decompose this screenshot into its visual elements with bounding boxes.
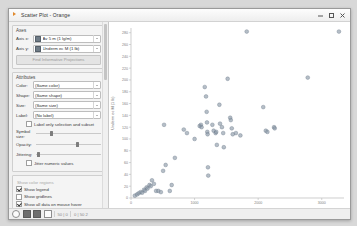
size-label: Size:	[16, 103, 33, 108]
svg-text:260: 260	[122, 43, 128, 47]
shape-combo[interactable]: (Same shape)	[33, 91, 101, 99]
label-value: (No label)	[35, 113, 93, 118]
svg-text:120: 120	[122, 126, 128, 130]
chevron-down-icon	[93, 45, 99, 52]
svg-text:200: 200	[122, 78, 128, 82]
svg-text:240: 240	[122, 55, 128, 59]
label-row: Label: (No label)	[16, 111, 101, 119]
label-only-selection-checkbox[interactable]: Label only selection and subset	[26, 121, 101, 127]
svg-text:100: 100	[122, 137, 128, 141]
jitter-numeric-values-text: Jitter numeric values	[34, 161, 73, 166]
svg-text:140: 140	[122, 114, 128, 118]
checkbox-box-icon	[26, 121, 32, 127]
show-color-regions-label: Show color regions	[17, 180, 101, 185]
jittering-slider-row: Jittering:	[16, 151, 101, 158]
maximize-icon[interactable]	[326, 10, 337, 21]
axis-x-label: Axis x:	[16, 36, 33, 41]
status-separator	[54, 211, 55, 217]
size-value: (Same size)	[35, 103, 93, 108]
panel-scrollbar-thumb[interactable]	[104, 24, 107, 80]
save-icon[interactable]	[23, 210, 31, 218]
svg-text:160: 160	[122, 102, 128, 106]
jittering-slider[interactable]	[36, 151, 101, 158]
svg-text:80: 80	[124, 149, 128, 153]
color-row: Color: (Same color)	[16, 81, 101, 89]
find-informative-projections-button[interactable]: Find Informative Projections	[16, 55, 101, 65]
axis-y-label: Axis y:	[16, 46, 33, 51]
shape-label: Shape:	[16, 93, 33, 98]
slider-handle[interactable]	[37, 152, 40, 157]
axis-x-row: Axis x: Av 5 m (1 lg/m)	[16, 35, 101, 43]
color-combo[interactable]: (Same color)	[33, 81, 101, 89]
find-informative-projections-label: Find Informative Projections	[33, 57, 85, 62]
axis-x-value: Av 5 m (1 lg/m)	[43, 36, 94, 41]
svg-text:40: 40	[124, 173, 128, 177]
show-legend-checkbox[interactable]: Show legend	[16, 186, 101, 192]
opacity-label: Opacity:	[16, 142, 36, 147]
slider-handle[interactable]	[76, 142, 79, 147]
show-gridlines-text: Show gridlines	[24, 194, 52, 199]
settings-icon[interactable]	[44, 210, 52, 218]
label-combo[interactable]: (No label)	[33, 111, 101, 119]
chevron-down-icon	[93, 92, 99, 99]
svg-text:3000: 3000	[318, 201, 326, 205]
attributes-group-title: Attributes	[16, 75, 101, 80]
panel-scrollbar[interactable]	[102, 22, 108, 208]
report-icon[interactable]	[33, 210, 41, 218]
scatter-plot-svg: 0204060801001201401601802002202402602800…	[109, 22, 350, 220]
status-separator	[70, 211, 71, 217]
symbol-size-label: Symbol size:	[16, 129, 36, 139]
chevron-down-icon	[93, 35, 99, 42]
opacity-slider-row: Opacity:	[16, 141, 101, 148]
opacity-slider[interactable]	[36, 141, 101, 148]
orange-widget-icon	[12, 12, 19, 19]
label-only-selection-text: Label only selection and subset	[34, 122, 94, 127]
show-gridlines-checkbox[interactable]: Show gridlines	[16, 194, 101, 200]
variable-swatch-icon	[35, 46, 41, 52]
svg-text:220: 220	[122, 67, 128, 71]
chevron-down-icon	[93, 112, 99, 119]
size-combo[interactable]: (Same size)	[33, 101, 101, 109]
symbol-size-slider[interactable]	[36, 130, 101, 137]
scatter-plot-window: Scatter Plot - Orange Axes Axis x: Av 5 …	[8, 8, 351, 220]
svg-text:280: 280	[122, 31, 128, 35]
show-all-data-on-hover-checkbox[interactable]: Show all data on mouse hover	[16, 201, 101, 207]
svg-text:2000: 2000	[254, 201, 262, 205]
svg-text:Underm ec M (1 lb): Underm ec M (1 lb)	[110, 96, 115, 130]
shape-value: (Same shape)	[35, 93, 93, 98]
color-label: Color:	[16, 83, 33, 88]
minimize-icon[interactable]	[315, 10, 326, 21]
size-row: Size: (Same size)	[16, 101, 101, 109]
checkbox-box-icon	[16, 186, 22, 192]
jitter-numeric-values-checkbox[interactable]: Jitter numeric values	[26, 160, 101, 166]
close-icon[interactable]	[337, 10, 348, 21]
shape-row: Shape: (Same shape)	[16, 91, 101, 99]
axes-group: Axes Axis x: Av 5 m (1 lg/m) Axis y: Und…	[12, 25, 105, 69]
checkbox-box-icon	[16, 194, 22, 200]
attributes-group: Attributes Color: (Same color) Shape: (S…	[12, 72, 105, 172]
axis-y-row: Axis y: Underm ec M (1 lb)	[16, 45, 101, 53]
checkbox-box-icon	[26, 160, 32, 166]
axis-y-combo[interactable]: Underm ec M (1 lb)	[33, 45, 101, 53]
slider-handle[interactable]	[50, 131, 53, 136]
chevron-down-icon	[93, 82, 99, 89]
svg-text:60: 60	[124, 161, 128, 165]
color-value: (Same color)	[35, 83, 93, 88]
axis-x-combo[interactable]: Av 5 m (1 lg/m)	[33, 35, 101, 43]
status-right-count: 0 | 50 2	[74, 212, 88, 217]
svg-text:20: 20	[124, 185, 128, 189]
show-all-data-on-hover-text: Show all data on mouse hover	[24, 202, 82, 207]
axes-group-title: Axes	[16, 28, 101, 33]
status-bar: 50 | 0 0 | 50 2	[9, 208, 350, 219]
svg-text:0: 0	[126, 196, 128, 200]
scatter-plot-area[interactable]: 0204060801001201401601802002202402602800…	[109, 22, 350, 220]
show-legend-text: Show legend	[24, 187, 49, 192]
jittering-label: Jittering:	[16, 152, 36, 157]
window-title: Scatter Plot - Orange	[21, 12, 70, 18]
axis-y-value: Underm ec M (1 lb)	[43, 46, 94, 51]
help-icon[interactable]	[12, 210, 20, 218]
status-left-count: 50 | 0	[58, 212, 68, 217]
variable-swatch-icon	[35, 36, 41, 42]
title-bar: Scatter Plot - Orange	[9, 9, 350, 22]
control-panel: Axes Axis x: Av 5 m (1 lg/m) Axis y: Und…	[9, 22, 109, 220]
